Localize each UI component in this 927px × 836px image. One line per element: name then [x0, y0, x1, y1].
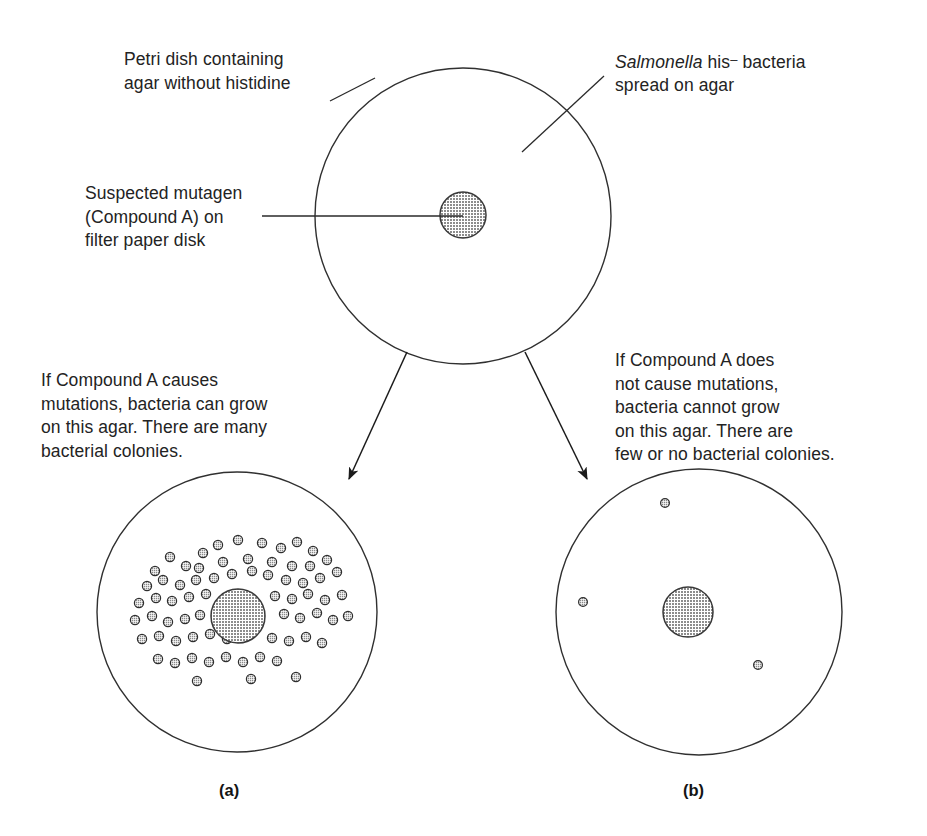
arrow-to-left-dish [349, 352, 407, 479]
bacterial-colony [243, 554, 252, 563]
label-result-mutagenic: If Compound A causes mutations, bacteria… [41, 369, 331, 463]
bacterial-colony [276, 543, 285, 552]
bacterial-colony [312, 608, 321, 617]
bacterial-colony [287, 594, 296, 603]
bacterial-colony [187, 653, 196, 662]
bacterial-colony [257, 538, 266, 547]
right-dish [556, 469, 842, 755]
bacterial-colony [246, 674, 255, 683]
bacterial-colony [272, 656, 281, 665]
bacterial-colony [158, 575, 167, 584]
bacterial-colony [292, 537, 301, 546]
bacterial-colony [287, 561, 296, 570]
label-salmonella: Salmonella his– bacteria spread on agar [615, 48, 885, 98]
bacterial-colony [295, 613, 304, 622]
bacterial-colony [579, 598, 588, 607]
bacterial-colony [204, 657, 213, 666]
bacterial-colony [247, 566, 256, 575]
label-salmonella-genus: Salmonella [615, 52, 703, 72]
bacterial-colony [147, 611, 156, 620]
bacterial-colony [284, 636, 293, 645]
bacterial-colony [188, 632, 197, 641]
bacterial-colony [175, 580, 184, 589]
bacterial-colony [303, 589, 312, 598]
bacterial-colony [332, 567, 341, 576]
bacterial-colony [301, 632, 310, 641]
bacterial-colony [315, 573, 324, 582]
bacterial-colony [317, 638, 326, 647]
bacterial-colony [205, 629, 214, 638]
bacterial-colony [165, 552, 174, 561]
bacterial-colony [130, 615, 139, 624]
bacterial-colony [279, 609, 288, 618]
bacterial-colony [151, 593, 160, 602]
bacterial-colony [267, 633, 276, 642]
bacterial-colony [170, 658, 179, 667]
bacterial-colony [281, 575, 290, 584]
arrow-to-right-dish [525, 352, 587, 479]
bacterial-colony [163, 617, 172, 626]
bacterial-colony [337, 590, 346, 599]
bacterial-colony [270, 591, 279, 600]
bacterial-colony [263, 570, 272, 579]
top-filter-paper-disk [440, 192, 486, 238]
bacterial-colony [305, 561, 314, 570]
bacterial-colony [171, 636, 180, 645]
bacterial-colony [194, 563, 203, 572]
bacterial-colony [328, 615, 337, 624]
bacterial-colony [192, 676, 201, 685]
left-dish [97, 472, 377, 752]
label-suspected-mutagen: Suspected mutagen (Compound A) on filter… [85, 182, 335, 253]
bacterial-colony [343, 611, 352, 620]
bacterial-colony [150, 566, 159, 575]
bacterial-colony [167, 596, 176, 605]
bacterial-colony [201, 589, 210, 598]
bacterial-colony [218, 557, 227, 566]
bacterial-colony [221, 652, 230, 661]
bacterial-colony [238, 657, 247, 666]
bacterial-colony [184, 592, 193, 601]
panel-label-b: (b) [683, 781, 704, 800]
bacterial-colony [322, 555, 331, 564]
label-salmonella-gene: his [703, 52, 731, 72]
bacterial-colony [227, 569, 236, 578]
bacterial-colony [191, 575, 200, 584]
bacterial-colony [153, 654, 162, 663]
bacterial-colony [195, 610, 204, 619]
bacterial-colony [213, 540, 222, 549]
bacterial-colony [233, 535, 242, 544]
bacterial-colony [308, 546, 317, 555]
bacterial-colony [255, 652, 264, 661]
bacterial-colony [180, 614, 189, 623]
bacterial-colony [661, 499, 670, 508]
panel-label-a: (a) [219, 781, 239, 800]
bacterial-colony [134, 598, 143, 607]
bacterial-colony [154, 631, 163, 640]
left-filter-paper-disk [211, 589, 265, 643]
bacterial-colony [198, 548, 207, 557]
bacterial-colony [181, 561, 190, 570]
bacterial-colony [209, 573, 218, 582]
bacterial-colony [291, 672, 300, 681]
right-filter-paper-disk [663, 587, 713, 637]
bacterial-colony [142, 581, 151, 590]
bacterial-colony [298, 578, 307, 587]
bacterial-colony [267, 557, 276, 566]
bacterial-colony [137, 634, 146, 643]
label-petri-dish: Petri dish containing agar without histi… [124, 48, 384, 95]
bacterial-colony [754, 661, 763, 670]
bacterial-colony [320, 595, 329, 604]
label-result-non-mutagenic: If Compound A does not cause mutations, … [615, 349, 905, 467]
